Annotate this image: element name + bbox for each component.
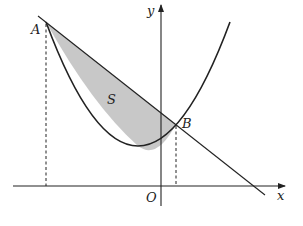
- label-origin: O: [146, 190, 157, 205]
- diagram-canvas: A B S O x y: [0, 0, 303, 226]
- shaded-region-s: [46, 22, 176, 150]
- label-x-axis: x: [277, 188, 285, 203]
- label-point-b: B: [181, 116, 192, 131]
- line-ab: [38, 16, 265, 195]
- label-y-axis: y: [146, 3, 155, 18]
- label-region-s: S: [107, 92, 116, 107]
- label-point-a: A: [30, 22, 40, 37]
